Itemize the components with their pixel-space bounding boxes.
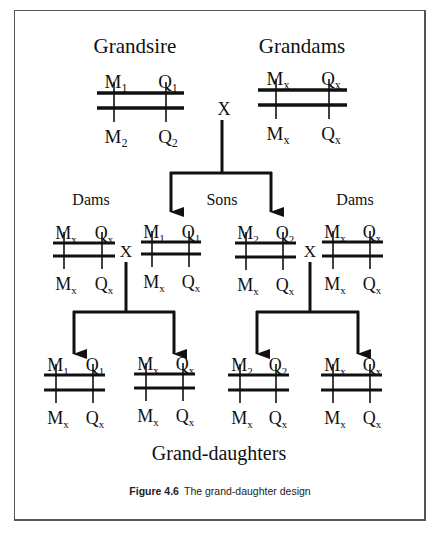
- cross-symbol-right: X: [304, 242, 316, 261]
- qtl-locus-label: Qx: [321, 68, 341, 92]
- qtl-locus-label: Qx: [276, 275, 295, 297]
- figure-number: Figure 4.6: [129, 485, 179, 497]
- cross-symbol-left: X: [120, 242, 132, 261]
- marker-locus-label: Mx: [55, 223, 77, 245]
- marker-locus-label: Mx: [324, 222, 346, 244]
- qtl-locus-label: Qx: [176, 406, 195, 428]
- marker-locus-label: Mx: [324, 355, 346, 377]
- qtl-locus-label: Qx: [86, 408, 105, 430]
- marker-locus-label: Mx: [231, 408, 253, 430]
- marker-locus-label: Mx: [137, 354, 159, 376]
- marker-locus-label: Mx: [324, 274, 346, 296]
- figure-caption: Figure 4.6The grand-daughter design: [14, 485, 426, 497]
- qtl-locus-label: Qx: [95, 223, 114, 245]
- grand-daughters-label: Grand-daughters: [152, 442, 287, 465]
- dams-label-right: Dams: [336, 191, 373, 208]
- qtl-locus-label: Q2: [276, 223, 295, 245]
- grand-daughter-4-chromosome: MxQxMxQx: [321, 355, 382, 430]
- marker-locus-label: Mx: [55, 274, 77, 296]
- marker-locus-label: M1: [143, 222, 165, 244]
- qtl-locus-label: Q2: [269, 355, 288, 377]
- marker-locus-label: M1: [47, 355, 69, 377]
- qtl-locus-label: Q2: [158, 126, 178, 150]
- qtl-locus-label: Q1: [86, 355, 105, 377]
- qtl-locus-label: Qx: [176, 354, 195, 376]
- marker-locus-label: Mx: [47, 408, 69, 430]
- grand-daughter-1-chromosome: M1Q1MxQx: [44, 355, 105, 430]
- grand-daughter-design-diagram: Grandsire Grandams M1Q1M2Q2 MxQxMxQx X D…: [0, 0, 440, 533]
- marker-locus-label: M2: [105, 126, 128, 150]
- qtl-locus-label: Qx: [269, 408, 288, 430]
- figure-title: The grand-daughter design: [184, 485, 311, 497]
- pedigree-connector-right: [256, 262, 359, 354]
- grandams-chromosome: MxQxMxQx: [258, 68, 347, 147]
- qtl-locus-label: Qx: [363, 222, 382, 244]
- cross-symbol-grandparents: X: [218, 99, 231, 119]
- dams-label-left: Dams: [72, 191, 109, 208]
- grand-daughter-2-chromosome: MxQxMxQx: [134, 354, 195, 428]
- son-2-chromosome: M2Q2MxQx: [235, 223, 296, 297]
- grand-daughter-3-chromosome: M2Q2MxQx: [228, 355, 289, 430]
- qtl-locus-label: Qx: [363, 408, 382, 430]
- son-1-chromosome: M1Q1MxQx: [141, 222, 201, 294]
- qtl-locus-label: Qx: [363, 274, 382, 296]
- right-dam-chromosome: MxQxMxQx: [322, 222, 383, 296]
- pedigree-connector-left: [73, 262, 175, 354]
- qtl-locus-label: Q1: [182, 222, 201, 244]
- qtl-locus-label: Q1: [158, 71, 178, 95]
- marker-locus-label: Mx: [137, 406, 159, 428]
- marker-locus-label: M2: [237, 223, 259, 245]
- marker-locus-label: M2: [231, 355, 253, 377]
- grandsire-label: Grandsire: [94, 34, 177, 58]
- marker-locus-label: Mx: [143, 272, 165, 294]
- sons-label: Sons: [206, 191, 237, 208]
- qtl-locus-label: Qx: [321, 123, 341, 147]
- grandams-label: Grandams: [259, 34, 345, 58]
- marker-locus-label: Mx: [267, 68, 290, 92]
- marker-locus-label: Mx: [324, 408, 346, 430]
- marker-locus-label: Mx: [267, 123, 290, 147]
- qtl-locus-label: Qx: [95, 274, 114, 296]
- qtl-locus-label: Qx: [363, 355, 382, 377]
- qtl-locus-label: Qx: [182, 272, 201, 294]
- marker-locus-label: Mx: [237, 275, 259, 297]
- left-dam-chromosome: MxQxMxQx: [53, 223, 115, 296]
- grandsire-chromosome: M1Q1M2Q2: [97, 71, 184, 150]
- marker-locus-label: M1: [105, 71, 128, 95]
